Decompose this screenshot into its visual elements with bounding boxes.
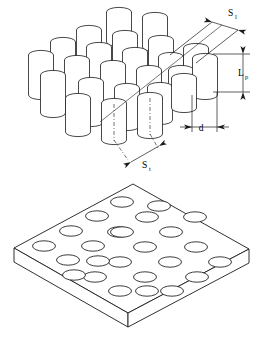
plate-hole [111,197,134,207]
plate-hole [111,227,134,237]
pin-fin [66,93,91,136]
label-lp-subscript: p [245,73,248,80]
label-lp-symbol: L [238,68,244,78]
figure-canvas: S l L p d [0,0,261,337]
plate-hole [87,256,110,266]
pin-fin [171,73,196,112]
plate-hole [209,257,232,267]
plate-hole [148,201,171,211]
pin-fin [41,70,66,117]
plate-hole [185,242,208,252]
plate-hole [136,212,159,222]
perforated-plate-view [14,184,249,327]
plate-hole [161,286,184,296]
plate-hole [109,257,132,267]
plate-hole [186,272,209,282]
plate-hole [109,286,132,296]
technical-diagram: S l L p d [0,0,261,337]
label-sl-symbol: S [228,8,233,18]
label-st-symbol: S [142,160,147,170]
plate-hole [57,255,80,265]
plate-hole [159,257,182,267]
plate-hole [184,212,207,222]
dimension-lp: L p [213,54,250,92]
plate-hole [86,211,109,221]
plate-hole [60,226,83,236]
plate-hole [63,270,86,280]
plate-hole [84,272,107,282]
plate-hole [134,242,157,252]
pin-array-view: S l L p d [29,7,251,172]
sl-dimension-line [212,22,238,30]
plate-hole [160,227,183,237]
label-d-symbol: d [199,123,204,133]
plate-hole [33,241,56,251]
plate-hole [136,286,159,296]
plate-hole [134,272,157,282]
label-sl-subscript: l [235,13,237,20]
label-st-subscript: t [149,165,151,172]
plate-hole [82,241,105,251]
pin-row-frontmost [66,92,163,144]
